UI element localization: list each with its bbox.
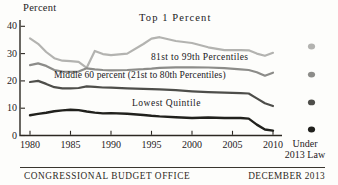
x-label-under-2013-law: Under 2013 Law [280, 139, 330, 160]
x-tick-label: 1995 [137, 139, 167, 151]
x-tick-label: 1985 [56, 139, 86, 151]
x-tick-label: 2005 [218, 139, 248, 151]
date-label: DECEMBER 2013 [248, 171, 325, 181]
under-2013-law-dot-0 [308, 44, 315, 50]
x-tick-label: 2000 [177, 139, 207, 151]
under-label-line1: Under [280, 139, 330, 150]
series-label-top-1-percent: Top 1 Percent [139, 12, 211, 23]
under-label-line2: 2013 Law [280, 150, 330, 161]
series-line-3 [30, 110, 273, 131]
x-tick-label: 1980 [15, 139, 45, 151]
source-label: CONGRESSIONAL BUDGET OFFICE [24, 171, 190, 181]
y-tick-label: 40 [0, 20, 17, 32]
y-tick-label: 30 [0, 48, 17, 60]
y-axis-title: Percent [23, 2, 57, 13]
y-tick-label: 10 [0, 102, 17, 114]
under-2013-law-dot-1 [308, 72, 315, 78]
series-label-81st-to-99th-percentiles: 81st to 99th Percentiles [151, 52, 248, 62]
footer-divider [20, 167, 325, 168]
under-2013-law-dot-3 [308, 127, 315, 133]
x-tick-label: 1990 [96, 139, 126, 151]
under-2013-law-dot-2 [308, 100, 315, 106]
series-label-lowest-quintile: Lowest Quintile [132, 98, 201, 108]
y-tick-label: 20 [0, 75, 17, 87]
series-label-middle-60-percent: Middle 60 percent (21st to 80th Percenti… [54, 70, 226, 80]
cbo-average-tax-rates-figure: Percent 010203040 1980198519901995200020… [0, 0, 338, 185]
